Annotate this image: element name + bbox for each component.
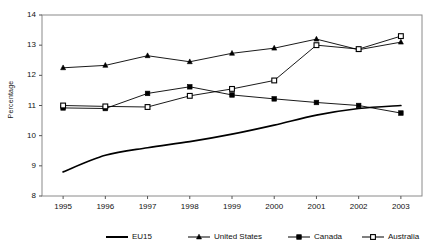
data-point-marker-square: [314, 100, 319, 105]
data-point-marker-square-open: [314, 43, 319, 48]
data-point-marker-square-open: [145, 105, 150, 110]
data-point-marker-square-open: [103, 104, 108, 109]
data-point-marker-square: [399, 111, 404, 116]
series-line: [63, 106, 401, 172]
series-eu15: [63, 106, 401, 172]
data-point-marker-square: [356, 103, 361, 108]
series-united-states: [61, 36, 404, 69]
data-point-marker-square-open: [187, 93, 192, 98]
legend-label-eu15: EU15: [132, 232, 152, 241]
legend-label-australia: Australia: [388, 232, 419, 241]
line-chart: Percentage 891011121314 1995199619971998…: [0, 0, 434, 251]
data-point-marker-square-open: [398, 34, 403, 39]
data-point-marker-square-open: [230, 87, 235, 92]
plot-area: [0, 0, 434, 251]
data-point-marker-square: [145, 91, 150, 96]
data-point-marker-triangle: [314, 36, 319, 41]
data-point-marker-square-open: [61, 103, 66, 108]
data-point-marker-square-open: [272, 78, 277, 83]
legend-label-united-states: United States: [214, 232, 262, 241]
plot-frame: [42, 15, 422, 196]
data-point-marker-square: [187, 84, 192, 89]
data-point-marker-square-open: [356, 47, 361, 52]
data-point-marker-triangle: [145, 53, 150, 58]
legend-label-canada: Canada: [314, 232, 342, 241]
series-australia: [61, 34, 404, 110]
data-point-marker-square: [272, 97, 277, 102]
data-point-marker-triangle: [398, 39, 403, 44]
data-point-marker-square: [230, 93, 235, 98]
